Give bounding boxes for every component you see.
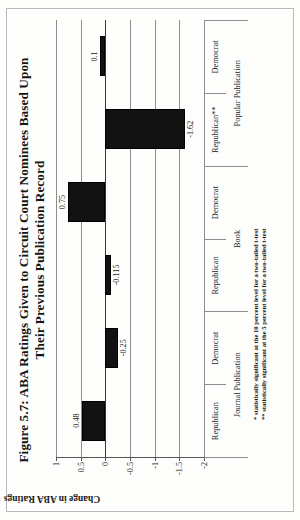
gridline — [56, 20, 57, 457]
category-label-party: Republican — [204, 239, 226, 312]
category-label-party: Democrat — [204, 20, 226, 93]
y-axis-tick-label: 0 — [101, 462, 110, 466]
y-axis-tick-mark — [56, 457, 57, 461]
category-label-party: Democrat — [204, 311, 226, 384]
y-axis-tick-mark — [105, 457, 106, 461]
gridline — [155, 20, 156, 457]
y-axis-title: Change in ABA Ratings — [0, 494, 112, 504]
bar — [100, 36, 105, 76]
category-label-group: Popular Publication — [226, 20, 248, 166]
y-axis-tick-labels: 10.50-0.5-1-1.5-2 — [56, 460, 204, 486]
bar-value-label: -0.115 — [112, 264, 121, 285]
y-axis-tick-mark — [81, 457, 82, 461]
category-axis-tier-group: Journal PublicationBookPopular Publicati… — [226, 20, 248, 458]
y-axis-tick-label: -1.5 — [175, 462, 184, 475]
bar-value-label: -0.25 — [119, 339, 128, 356]
figure-page: Figure 5.7: ABA Ratings Given to Circuit… — [0, 0, 300, 520]
category-label-group: Book — [226, 166, 248, 312]
gridline — [130, 20, 131, 457]
bar — [105, 328, 117, 368]
bar-value-label: 0.75 — [58, 195, 67, 209]
category-axis-tier-party: RepublicanDemocratRepublicanDemocratRepu… — [204, 20, 226, 458]
footnote-one-star: * statistically significant at the 10 pe… — [252, 229, 260, 420]
figure-footnotes: * statistically significant at the 10 pe… — [252, 229, 269, 420]
chart-plot-area: Change in ABA Ratings 10.50-0.5-1-1.5-2 … — [56, 20, 226, 498]
y-axis-tick-mark — [130, 457, 131, 461]
figure-title-line-1: Figure 5.7: ABA Ratings Given to Circuit… — [16, 57, 31, 462]
figure-title: Figure 5.7: ABA Ratings Given to Circuit… — [16, 26, 47, 494]
scanned-page-frame: Figure 5.7: ABA Ratings Given to Circuit… — [0, 0, 300, 520]
footnote-two-star: ** statistically significant at the 5 pe… — [260, 229, 268, 420]
rotated-page-wrapper: Figure 5.7: ABA Ratings Given to Circuit… — [0, 0, 300, 520]
figure-title-line-2: Their Previous Publication Record — [32, 26, 48, 494]
category-label-party: Democrat — [204, 166, 226, 239]
bar-value-label: 0.48 — [72, 413, 81, 427]
gridline — [179, 20, 180, 457]
bar — [82, 401, 106, 441]
bar — [105, 109, 185, 149]
bar — [68, 182, 105, 222]
category-label-group: Journal Publication — [226, 311, 248, 458]
bar-value-label: -1.62 — [186, 121, 195, 138]
category-label-party: Republican** — [204, 93, 226, 166]
y-axis-tick-mark — [155, 457, 156, 461]
y-axis-tick-label: -0.5 — [126, 462, 135, 475]
bar — [105, 255, 111, 295]
gridline — [81, 20, 82, 457]
y-axis-tick-label: -1 — [150, 462, 159, 469]
y-axis-tick-label: -2 — [200, 462, 209, 469]
plot-canvas: 0.48-0.25-0.1150.75-1.620.1 — [56, 20, 204, 458]
y-axis-tick-mark — [179, 457, 180, 461]
y-axis-tick-label: 1 — [52, 462, 61, 466]
category-label-party: Republican — [204, 384, 226, 458]
bar-value-label: 0.1 — [90, 51, 99, 61]
zero-line — [105, 20, 106, 457]
category-axis: RepublicanDemocratRepublicanDemocratRepu… — [204, 20, 250, 458]
y-axis-tick-label: 0.5 — [76, 462, 85, 472]
